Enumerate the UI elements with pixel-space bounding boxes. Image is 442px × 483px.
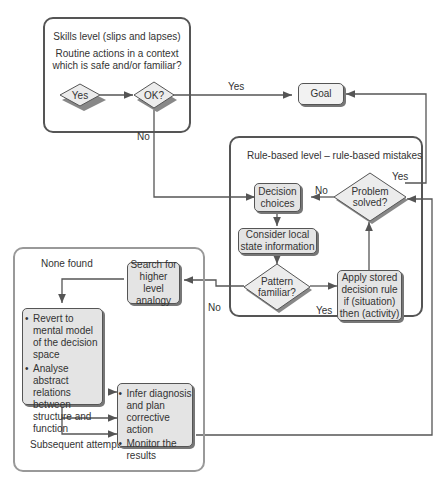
ok-yes-label: Yes	[228, 81, 244, 93]
rule-level-title: Rule-based level – rule-based mistakes	[247, 150, 422, 162]
apply-line1: Apply stored	[342, 272, 398, 284]
decision-choices-box: Decision choices	[254, 183, 301, 212]
problem-no-label: No	[315, 185, 328, 197]
pattern-no-label: No	[208, 302, 221, 314]
ok-node-label: OK?	[138, 90, 170, 101]
yes-node-label: Yes	[66, 90, 94, 101]
decision-choices-line1: Decision	[258, 186, 296, 198]
subsequent-attempts-label: Subsequent attempts	[30, 439, 125, 451]
search-analogy-box: Search for higher level analogy	[127, 262, 180, 304]
monitor-item: Monitor the results	[127, 438, 193, 462]
revert-analyse-box: Revert to mental model of the decision s…	[22, 308, 103, 405]
skills-question-line2: which is safe and/or familiar?	[43, 60, 191, 72]
apply-line4: then (activity)	[340, 308, 399, 320]
consider-local-state-box: Consider local state information	[238, 228, 317, 254]
decision-choices-line2: choices	[261, 198, 295, 210]
search-line2: higher level	[128, 271, 179, 295]
skills-level-title: Skills level (slips and lapses)	[43, 31, 191, 43]
skills-question-line1: Routine actions in a context	[43, 48, 191, 60]
consider-line2: state information	[241, 241, 315, 253]
consider-line1: Consider local	[246, 229, 309, 241]
apply-stored-rule-box: Apply stored decision rule if (situation…	[337, 270, 402, 321]
goal-label: Goal	[310, 88, 331, 100]
problem-solved-label: Problem solved?	[346, 186, 394, 208]
ok-no-label: No	[137, 131, 150, 143]
problem-yes-label: Yes	[392, 171, 408, 183]
goal-box: Goal	[298, 83, 344, 105]
revert-item: Revert to mental model of the decision s…	[33, 313, 101, 361]
infer-item: Infer diagnosis and plan corrective acti…	[127, 388, 193, 436]
apply-line2: decision rule	[341, 284, 397, 296]
pattern-familiar-label: Pattern familiar?	[254, 276, 300, 298]
apply-line3: if (situation)	[344, 296, 396, 308]
search-line3: analogy	[136, 295, 171, 307]
analyse-item: Analyse abstract relations between struc…	[33, 363, 101, 435]
infer-monitor-box: Infer diagnosis and plan corrective acti…	[117, 383, 193, 447]
pattern-yes-label: Yes	[316, 305, 332, 317]
knowledge-level-title: None found	[41, 258, 93, 270]
search-line1: Search for	[130, 259, 176, 271]
